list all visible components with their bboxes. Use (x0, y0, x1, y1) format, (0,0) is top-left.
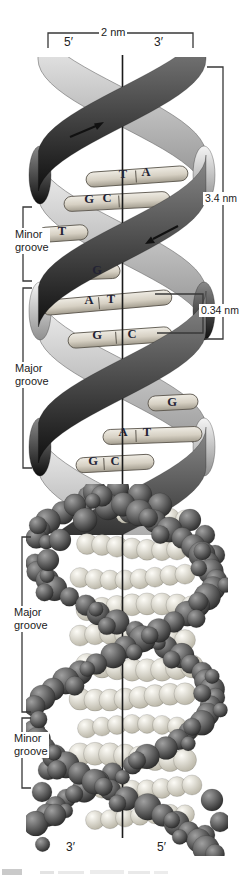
base-letter: T (116, 168, 130, 181)
groove-label-line2: groove (14, 619, 48, 632)
major-groove-label-ribbon: Major groove (14, 362, 50, 388)
bottom-right-prime-label: 5′ (157, 840, 166, 854)
minor-groove-label-spacefill: Minor groove (13, 732, 49, 758)
base-letter: A (139, 166, 153, 179)
base-letter: T (55, 225, 69, 238)
base-letter: A (82, 294, 96, 307)
groove-label-line1: Major (14, 606, 48, 619)
base-letter: C (125, 328, 139, 341)
caption-fragment (2, 869, 168, 875)
major-groove-label-spacefill: Major groove (13, 606, 49, 632)
turn-length-label: 3.4 nm (203, 192, 239, 205)
top-left-prime-label: 5′ (64, 35, 73, 49)
rise-label: 0.34 nm (199, 304, 240, 317)
top-right-prime-label: 3′ (154, 35, 163, 49)
base-letter: T (104, 293, 118, 306)
groove-label-line2: groove (15, 241, 49, 254)
base-letter: A (116, 426, 130, 439)
base-letter: G (86, 455, 100, 468)
groove-label-line1: Minor (15, 228, 49, 241)
base-letter: G (165, 396, 179, 409)
groove-label-line2: groove (15, 375, 49, 388)
dna-structure-figure: 2 nm 5′ 3′ 3.4 nm 0.34 nm Minor groove M… (0, 0, 240, 876)
diameter-label: 2 nm (99, 26, 127, 39)
base-letter: G (82, 193, 96, 206)
minor-groove-label-ribbon: Minor groove (14, 228, 50, 254)
base-letter: G (90, 329, 104, 342)
groove-label-line1: Major (15, 362, 49, 375)
groove-label-line2: groove (14, 745, 48, 758)
base-letter: G (90, 264, 104, 277)
base-letter: T (140, 426, 154, 439)
groove-label-line1: Minor (14, 732, 48, 745)
base-letter: C (100, 192, 114, 205)
base-letter: C (108, 455, 122, 468)
bottom-left-prime-label: 3′ (66, 840, 75, 854)
